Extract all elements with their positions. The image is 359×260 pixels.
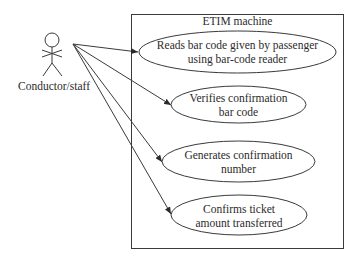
- association-line-1: [73, 44, 138, 52]
- use-case-label-4-line-2: amount transferred: [171, 216, 307, 230]
- system-title: ETIM machine: [131, 15, 344, 27]
- use-case-label-1-line-1: Reads bar code given by passenger: [139, 38, 336, 52]
- use-case-label-3-line-2: number: [162, 162, 315, 176]
- use-case-label-4-line-1: Confirms ticket: [171, 202, 307, 216]
- association-line-4: [73, 44, 171, 214]
- actor-stick-figure-icon: [42, 33, 62, 76]
- use-case-label-1-line-2: using bar-code reader: [139, 52, 336, 66]
- use-case-label-4: Confirms ticket amount transferred: [171, 202, 307, 230]
- use-case-label-1: Reads bar code given by passenger using …: [139, 38, 336, 66]
- use-case-label-2: Verifies confirmation bar code: [171, 91, 306, 119]
- use-case-label-3-line-1: Generates confirmation: [162, 148, 315, 162]
- use-case-label-2-line-1: Verifies confirmation: [171, 91, 306, 105]
- actor-label: Conductor/staff: [4, 80, 104, 92]
- use-case-label-3: Generates confirmation number: [162, 148, 315, 176]
- use-case-label-2-line-2: bar code: [171, 105, 306, 119]
